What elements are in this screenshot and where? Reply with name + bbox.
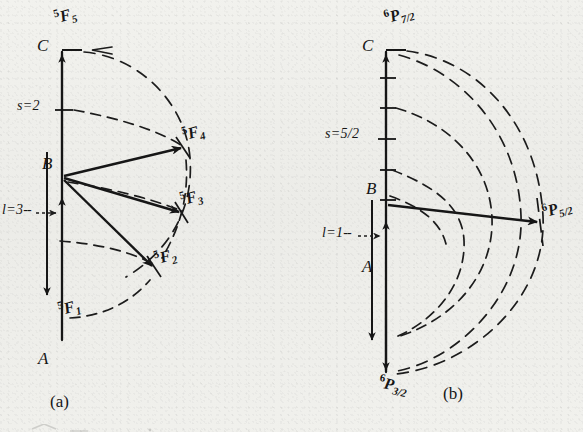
- panel-caption-b: (b): [443, 385, 463, 402]
- panel-b-arcs: [390, 51, 543, 374]
- spin-quantum-label-panel-b: s=5/2: [325, 127, 359, 141]
- orbital-quantum-label-panel-b: l=1--: [322, 226, 351, 240]
- panel-b-axis: [386, 50, 406, 372]
- panel-caption-a: (a): [50, 393, 69, 410]
- axis-point-C-panel-a: C: [37, 37, 48, 54]
- figure-canvas: [0, 0, 583, 432]
- axis-point-A-panel-b: A: [362, 258, 372, 275]
- axis-point-B-panel-a: B: [42, 155, 52, 172]
- panel-b-resultant-vectors: [388, 205, 537, 222]
- axis-point-B-panel-b: B: [366, 180, 376, 197]
- axis-point-A-panel-a: A: [38, 350, 48, 367]
- axis-point-C-panel-b: C: [362, 37, 373, 54]
- orbital-quantum-label-panel-a: l=3--: [2, 203, 31, 217]
- spin-quantum-label-panel-a: s=2: [17, 99, 40, 113]
